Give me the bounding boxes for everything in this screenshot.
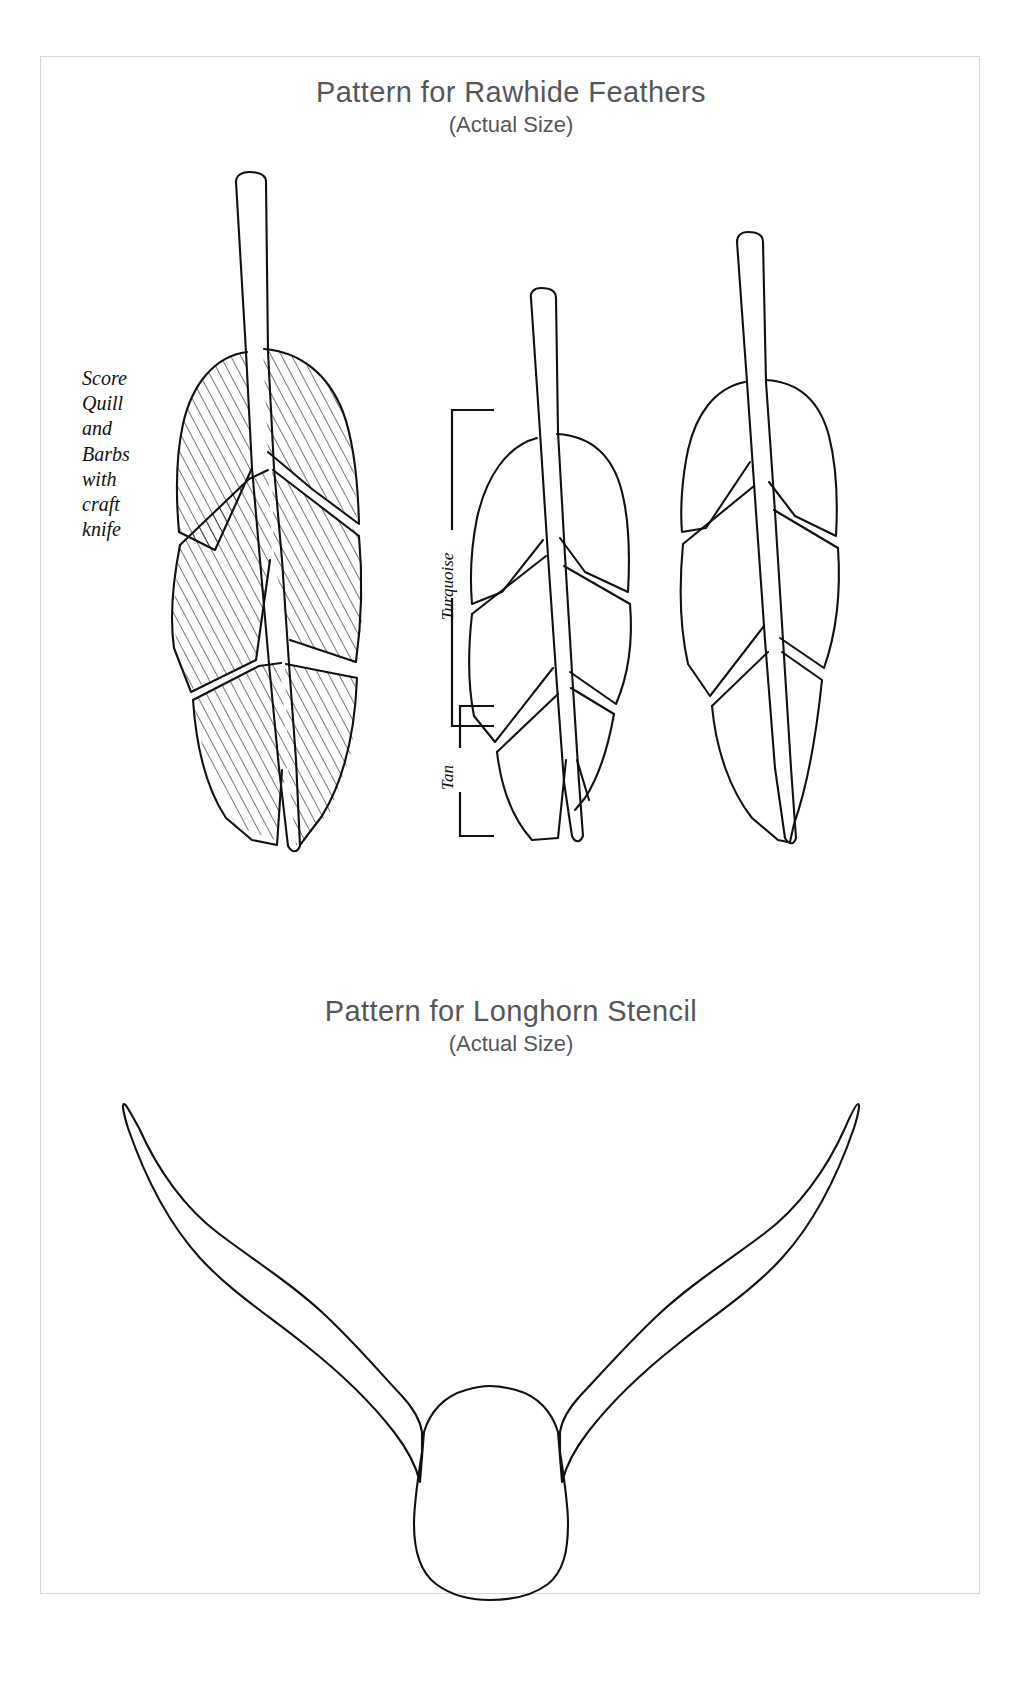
feather-middle-vane-mid-right-body bbox=[570, 604, 631, 704]
feather-middle-vane-mid-right bbox=[564, 566, 630, 604]
feather-middle-vane-low-left bbox=[497, 694, 558, 752]
feather-right-vane-low-right bbox=[782, 652, 822, 680]
feather-right-outline bbox=[681, 232, 839, 843]
pattern-artwork bbox=[0, 0, 1022, 1700]
feather-right-vane-mid-right bbox=[774, 510, 838, 548]
longhorn-skull-silhouette bbox=[123, 1104, 859, 1600]
bracket-turquoise bbox=[452, 410, 494, 726]
feather-middle-vane-low-left-body bbox=[497, 752, 566, 840]
feather-middle-outline bbox=[469, 288, 631, 841]
feather-middle-vane-mid-left-body bbox=[469, 614, 553, 742]
feather-middle-vane-low-right bbox=[571, 688, 614, 714]
feather-right-vane-mid-left-body bbox=[681, 544, 764, 696]
feather-right-vane-upper-left bbox=[681, 382, 750, 532]
feather-middle-quill bbox=[531, 288, 583, 841]
feather-left-hatched bbox=[150, 172, 500, 880]
feather-right-quill bbox=[737, 232, 796, 843]
feather-left-hatching bbox=[150, 330, 500, 880]
feather-right-vane-low-left bbox=[712, 652, 768, 706]
feather-right-vane-mid-right-body bbox=[780, 548, 839, 668]
longhorn-outline bbox=[123, 1104, 859, 1600]
feather-middle-vane-upper-left bbox=[471, 438, 543, 604]
color-brackets bbox=[452, 410, 494, 836]
feather-middle-vane-mid-left bbox=[472, 556, 546, 614]
feather-right-vane-mid-left bbox=[683, 486, 754, 544]
